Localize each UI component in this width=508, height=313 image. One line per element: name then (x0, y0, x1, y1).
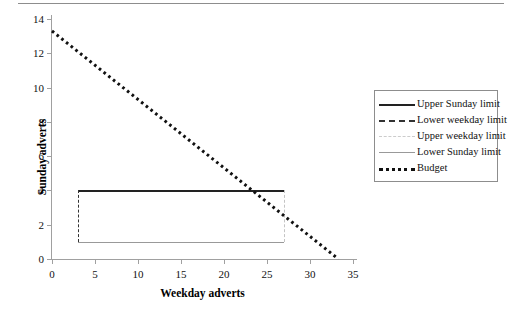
x-tick-label: 15 (176, 269, 187, 280)
y-tick-label: 2 (39, 219, 45, 230)
y-axis-title: Sunday adverts (36, 118, 48, 194)
y-tick-label: 10 (33, 82, 44, 93)
series-budget-line (52, 19, 372, 269)
legend-item: Upper weekday limit (375, 128, 497, 144)
legend-swatch-solid-black-icon (379, 99, 415, 109)
legend-item: Budget (375, 160, 497, 176)
y-tick-label: 0 (39, 254, 45, 265)
chart-plot-area: 02468101214 05101520253035 (52, 19, 353, 259)
legend-item-label: Lower weekday limit (417, 115, 507, 126)
legend-item-label: Budget (417, 163, 447, 174)
legend-item: Lower weekday limit (375, 112, 497, 128)
legend-swatch-dashed-black-icon (379, 115, 415, 125)
x-tick-label: 30 (305, 269, 316, 280)
legend-swatch-solid-gray-icon (379, 147, 415, 157)
x-axis-title: Weekday adverts (52, 287, 353, 299)
y-tick-label: 14 (33, 14, 44, 25)
y-tick-label: 12 (33, 48, 44, 59)
top-divider-rule (18, 3, 504, 4)
legend-item-label: Upper weekday limit (417, 131, 506, 142)
x-tick-label: 20 (219, 269, 230, 280)
chart-legend: Upper Sunday limitLower weekday limitUpp… (374, 90, 498, 182)
x-tick-label: 35 (348, 269, 359, 280)
legend-item: Upper Sunday limit (375, 96, 497, 112)
x-tick-label: 0 (49, 269, 55, 280)
legend-item: Lower Sunday limit (375, 144, 497, 160)
x-tick-label: 10 (133, 269, 144, 280)
legend-item-label: Upper Sunday limit (417, 99, 500, 110)
x-tick-label: 25 (262, 269, 273, 280)
x-tick-label: 5 (92, 269, 98, 280)
legend-swatch-dashdot-gray-icon (379, 131, 415, 141)
legend-item-label: Lower Sunday limit (417, 147, 501, 158)
legend-swatch-dotted-black-icon (379, 163, 415, 173)
